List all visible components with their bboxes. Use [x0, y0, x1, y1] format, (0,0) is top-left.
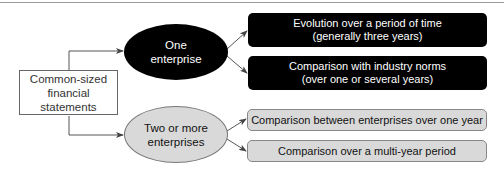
arrow-two-to-multiyear	[227, 139, 246, 151]
source-label: Common-sized financial statements	[30, 72, 107, 114]
between-enterprises-label: Comparison between enterprises over one …	[251, 114, 483, 127]
multi-year-label: Comparison over a multi-year period	[278, 145, 456, 158]
between-enterprises-box: Comparison between enterprises over one …	[247, 109, 487, 131]
one-enterprise-label: One enterprise	[150, 38, 201, 66]
multiple-enterprises-label: Two or more enterprises	[144, 121, 208, 149]
industry-norms-label: Comparison with industry norms (over one…	[289, 60, 446, 86]
industry-norms-box: Comparison with industry norms (over one…	[248, 56, 487, 90]
source-box: Common-sized financial statements	[19, 70, 118, 115]
arrow-source-to-one	[69, 51, 123, 70]
multi-year-box: Comparison over a multi-year period	[247, 140, 487, 162]
evolution-label: Evolution over a period of time (general…	[293, 17, 442, 43]
arrow-two-to-between	[227, 119, 246, 131]
multiple-enterprises-node: Two or more enterprises	[124, 106, 228, 163]
arrow-one-to-evolution	[227, 31, 247, 49]
diagram-canvas: Common-sized financial statements One en…	[0, 0, 504, 173]
arrow-one-to-industry	[227, 56, 247, 73]
arrow-source-to-two	[69, 116, 123, 135]
evolution-over-time-box: Evolution over a period of time (general…	[248, 13, 487, 47]
one-enterprise-node: One enterprise	[124, 24, 228, 80]
